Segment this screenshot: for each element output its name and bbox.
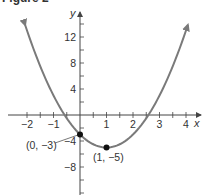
x-tick-label: 2 bbox=[130, 118, 136, 130]
point-vertex bbox=[104, 145, 110, 151]
x-axis-label: x bbox=[193, 117, 200, 129]
y-minor-ticks bbox=[80, 24, 84, 193]
y-tick-label: −4 bbox=[64, 135, 76, 147]
y-tick-labels: 1284−4−8 bbox=[64, 31, 76, 173]
x-tick-label: 1 bbox=[104, 118, 110, 130]
y-tick-label: 12 bbox=[64, 31, 76, 43]
y-tick-label: −8 bbox=[64, 161, 76, 173]
parabola-chart: −2−11234 1284−4−8 x y (0, −3) (1, −5) bbox=[0, 0, 208, 195]
annotations: (0, −3) (1, −5) bbox=[26, 132, 124, 164]
x-tick-label: −2 bbox=[21, 118, 33, 130]
y-tick-label: 8 bbox=[70, 57, 76, 69]
x-tick-label: −1 bbox=[48, 118, 60, 130]
y-tick-label: 4 bbox=[70, 83, 76, 95]
label-y-intercept: (0, −3) bbox=[26, 139, 57, 151]
x-tick-label: 4 bbox=[183, 118, 189, 130]
point-y-intercept bbox=[77, 132, 83, 138]
axes: −2−11234 1284−4−8 x y bbox=[8, 7, 201, 195]
x-tick-label: 3 bbox=[157, 118, 163, 130]
y-axis-label: y bbox=[69, 7, 77, 19]
x-tick-labels: −2−11234 bbox=[21, 118, 189, 130]
label-vertex: (1, −5) bbox=[93, 151, 124, 163]
